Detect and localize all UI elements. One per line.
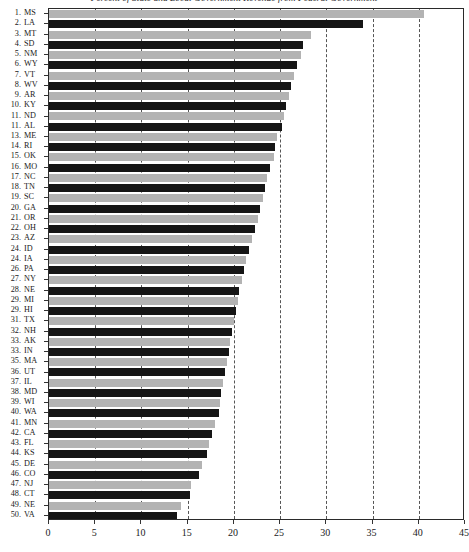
y-label-state: RI bbox=[24, 141, 44, 151]
x-tick-35 bbox=[372, 520, 373, 524]
y-label-rank: 24. bbox=[4, 244, 21, 254]
y-label-rank: 13. bbox=[4, 131, 21, 141]
y-label-OR: 21.OR bbox=[0, 213, 44, 223]
y-label-rank: 4. bbox=[4, 39, 21, 49]
bar-row bbox=[49, 60, 464, 70]
y-label-MS: 1.MS bbox=[0, 8, 44, 18]
x-tick-25 bbox=[279, 520, 280, 524]
y-label-CO: 46.CO bbox=[0, 469, 44, 479]
bar-row bbox=[49, 50, 464, 60]
bar-row bbox=[49, 255, 464, 265]
bar-TN bbox=[49, 184, 265, 192]
y-label-rank: 6. bbox=[4, 59, 21, 69]
bar-IA bbox=[49, 256, 246, 264]
y-label-rank: 22. bbox=[4, 223, 21, 233]
bar-AL bbox=[49, 123, 282, 131]
y-label-LA: 2.LA bbox=[0, 18, 44, 28]
y-label-NE: 28.NE bbox=[0, 284, 44, 294]
y-label-state: OH bbox=[24, 223, 44, 233]
bar-row bbox=[49, 501, 464, 511]
x-axis-tick-labels: 051015202530354045 bbox=[0, 526, 468, 542]
y-label-state: FL bbox=[24, 438, 44, 448]
y-label-VT: 7.VT bbox=[0, 69, 44, 79]
y-label-rank: 45. bbox=[4, 459, 21, 469]
y-label-AL: 11.AL bbox=[0, 121, 44, 131]
bar-ND bbox=[49, 112, 284, 120]
bar-row bbox=[49, 398, 464, 408]
y-label-state: OR bbox=[24, 213, 44, 223]
y-label-WI: 39.WI bbox=[0, 397, 44, 407]
y-label-rank: 33. bbox=[4, 346, 21, 356]
bar-MI bbox=[49, 297, 238, 305]
y-label-rank: 28. bbox=[4, 285, 21, 295]
bar-row bbox=[49, 142, 464, 152]
bar-UT bbox=[49, 368, 225, 376]
bar-row bbox=[49, 265, 464, 275]
bar-NE bbox=[49, 287, 239, 295]
bar-GA bbox=[49, 205, 260, 213]
bar-CO bbox=[49, 471, 199, 479]
y-label-state: NE bbox=[24, 500, 44, 510]
bar-row bbox=[49, 326, 464, 336]
y-label-rank: 21. bbox=[4, 213, 21, 223]
y-label-state: MT bbox=[24, 29, 44, 39]
y-label-state: VT bbox=[24, 70, 44, 80]
bar-IL bbox=[49, 379, 223, 387]
bar-row bbox=[49, 183, 464, 193]
y-label-state: KS bbox=[24, 448, 44, 458]
bar-rows bbox=[49, 9, 464, 520]
bar-row bbox=[49, 152, 464, 162]
bar-row bbox=[49, 122, 464, 132]
y-label-IA: 24.IA bbox=[0, 254, 44, 264]
y-label-IN: 33.IN bbox=[0, 346, 44, 356]
y-label-rank: 9. bbox=[4, 90, 21, 100]
y-label-rank: 44. bbox=[4, 448, 21, 458]
bar-PA bbox=[49, 266, 244, 274]
y-label-state: IL bbox=[24, 377, 44, 387]
y-label-state: AK bbox=[24, 336, 44, 346]
y-label-state: NC bbox=[24, 172, 44, 182]
bar-row bbox=[49, 224, 464, 234]
y-label-state: WA bbox=[24, 407, 44, 417]
y-label-rank: 32. bbox=[4, 326, 21, 336]
bar-row bbox=[49, 470, 464, 480]
y-label-state: MI bbox=[24, 295, 44, 305]
y-label-state: MN bbox=[24, 418, 44, 428]
y-label-rank: 47. bbox=[4, 479, 21, 489]
x-tick-10 bbox=[140, 520, 141, 524]
y-label-CT: 48.CT bbox=[0, 489, 44, 499]
y-label-OH: 22.OH bbox=[0, 223, 44, 233]
y-label-state: OK bbox=[24, 151, 44, 161]
bar-row bbox=[49, 419, 464, 429]
y-label-rank: 38. bbox=[4, 387, 21, 397]
bar-row bbox=[49, 234, 464, 244]
y-label-TX: 31.TX bbox=[0, 315, 44, 325]
y-label-rank: 18. bbox=[4, 182, 21, 192]
y-label-SC: 19.SC bbox=[0, 192, 44, 202]
y-label-rank: 11. bbox=[4, 111, 21, 121]
bar-IN bbox=[49, 348, 229, 356]
y-label-state: NY bbox=[24, 274, 44, 284]
bar-MN bbox=[49, 420, 215, 428]
y-label-state: DE bbox=[24, 459, 44, 469]
x-tick-label-45: 45 bbox=[459, 526, 469, 539]
x-tick-40 bbox=[418, 520, 419, 524]
y-label-NJ: 47.NJ bbox=[0, 479, 44, 489]
y-label-state: NH bbox=[24, 326, 44, 336]
x-tick-label-30: 30 bbox=[320, 526, 330, 539]
bar-row bbox=[49, 439, 464, 449]
y-label-rank: 27. bbox=[4, 274, 21, 284]
bar-row bbox=[49, 490, 464, 500]
y-label-NE: 49.NE bbox=[0, 500, 44, 510]
bar-WI bbox=[49, 399, 220, 407]
y-label-UT: 36.UT bbox=[0, 366, 44, 376]
y-label-VA: 50.VA bbox=[0, 510, 44, 520]
y-label-rank: 17. bbox=[4, 172, 21, 182]
y-label-AK: 33.AK bbox=[0, 336, 44, 346]
x-tick-label-0: 0 bbox=[46, 526, 51, 539]
x-tick-label-20: 20 bbox=[228, 526, 238, 539]
y-label-rank: 29. bbox=[4, 295, 21, 305]
bar-AR bbox=[49, 92, 289, 100]
y-label-state: CA bbox=[24, 428, 44, 438]
